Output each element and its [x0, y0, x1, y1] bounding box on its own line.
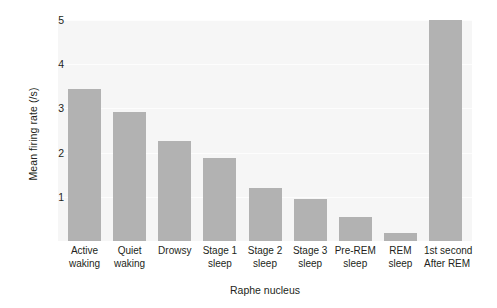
x-axis-ticks: ActivewakingQuietwakingDrowsyStage 1slee…	[58, 245, 472, 270]
x-tick-label: Stage 2sleep	[244, 245, 287, 270]
bar-slot	[379, 20, 422, 241]
y-tick-label: 2	[40, 147, 64, 159]
bar	[113, 112, 146, 241]
x-tick-label: Pre-REMsleep	[334, 245, 377, 270]
plot-area	[58, 20, 472, 241]
y-tick-label: 4	[40, 58, 64, 70]
x-tick-label: Drowsy	[153, 245, 196, 270]
bar-chart-figure: Mean firing rate (/s) 12345 Activewaking…	[0, 0, 497, 308]
x-tick-label-line: 1st second	[424, 245, 467, 258]
y-axis-label: Mean firing rate (/s)	[27, 39, 39, 229]
bar-series	[58, 20, 472, 241]
y-tick-label: 3	[40, 102, 64, 114]
x-tick-label-line: Active	[63, 245, 106, 258]
bar-slot	[424, 20, 467, 241]
y-tick-label: 1	[40, 191, 64, 203]
x-tick-label-line: Pre-REM	[334, 245, 377, 258]
x-tick-label-line: sleep	[289, 258, 332, 271]
x-tick-label: Stage 1sleep	[198, 245, 241, 270]
bar-slot	[198, 20, 241, 241]
x-tick-label: 1st secondAfter REM	[424, 245, 467, 270]
bar-slot	[63, 20, 106, 241]
x-tick-label-line: sleep	[244, 258, 287, 271]
bar	[294, 199, 327, 241]
bar-slot	[334, 20, 377, 241]
bar	[158, 141, 191, 241]
bar	[203, 158, 236, 241]
x-axis-label: Raphe nucleus	[58, 284, 472, 296]
x-tick-label-line: Stage 1	[198, 245, 241, 258]
x-tick-label-line: After REM	[424, 258, 467, 271]
bar	[339, 217, 372, 241]
x-tick-label-line: REM	[379, 245, 422, 258]
x-tick-label: Activewaking	[63, 245, 106, 270]
x-tick-label-line: Drowsy	[153, 245, 196, 258]
x-tick-label-line: waking	[108, 258, 151, 271]
x-tick-label: Quietwaking	[108, 245, 151, 270]
bar-slot	[108, 20, 151, 241]
x-tick-label-line: sleep	[379, 258, 422, 271]
bar	[384, 233, 417, 241]
y-tick-label: 5	[40, 14, 64, 26]
bar-slot	[289, 20, 332, 241]
x-tick-label-line: sleep	[334, 258, 377, 271]
x-tick-label-line: Stage 3	[289, 245, 332, 258]
x-tick-label-line: waking	[63, 258, 106, 271]
bar-slot	[244, 20, 287, 241]
x-tick-label-line: Stage 2	[244, 245, 287, 258]
x-tick-label-line: sleep	[198, 258, 241, 271]
bar	[429, 20, 462, 241]
x-tick-label: REMsleep	[379, 245, 422, 270]
x-tick-label-line: Quiet	[108, 245, 151, 258]
bar-slot	[153, 20, 196, 241]
x-tick-label: Stage 3sleep	[289, 245, 332, 270]
bar	[68, 89, 101, 241]
bar	[249, 188, 282, 241]
